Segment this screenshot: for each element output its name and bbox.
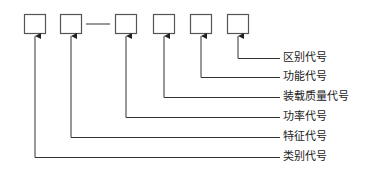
label-power-code: 功率代号 — [283, 111, 327, 123]
leader-line-1 — [238, 36, 280, 59]
leader-line-6 — [35, 36, 280, 158]
leader-line-4 — [126, 36, 280, 118]
label-load-capacity-code: 装载质量代号 — [283, 91, 349, 103]
code-box-4 — [154, 15, 175, 34]
label-feature-code: 特征代号 — [283, 131, 327, 143]
code-box-2 — [61, 15, 82, 34]
code-box-1 — [25, 15, 46, 34]
code-box-3 — [116, 15, 137, 34]
code-boxes — [25, 15, 249, 34]
leader-line-5 — [71, 36, 280, 138]
label-category-code: 类别代号 — [283, 151, 327, 163]
leader-line-3 — [164, 36, 280, 98]
code-box-5 — [191, 15, 212, 34]
connector-lines — [35, 24, 280, 158]
code-box-6 — [228, 15, 249, 34]
leader-line-2 — [201, 36, 280, 78]
label-distinction-code: 区别代号 — [283, 52, 327, 64]
label-function-code: 功能代号 — [283, 71, 327, 83]
code-structure-diagram — [0, 0, 371, 175]
